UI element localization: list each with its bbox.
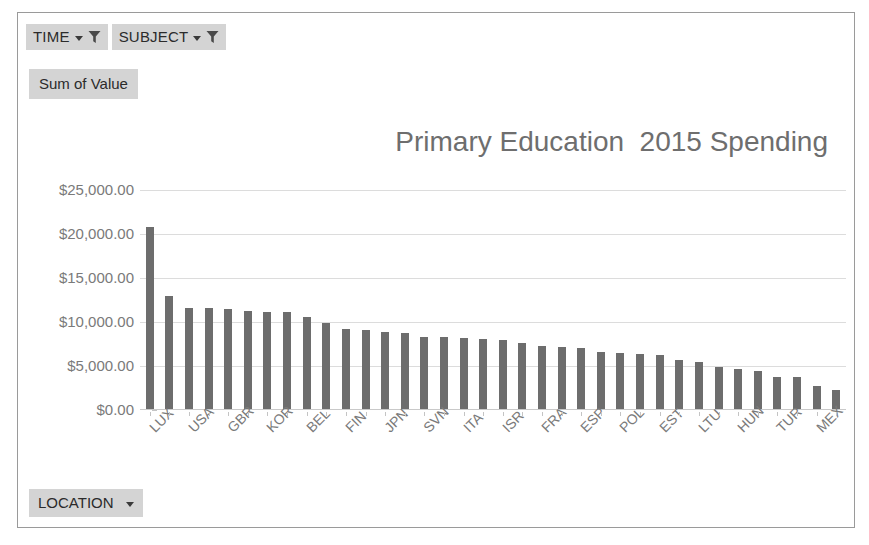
y-axis-tick-label: $5,000.00 <box>18 357 134 374</box>
bar[interactable] <box>146 227 154 410</box>
y-axis: $25,000.00$20,000.00$15,000.00$10,000.00… <box>18 176 134 424</box>
y-axis-tick <box>152 410 157 411</box>
bar[interactable] <box>813 386 821 410</box>
filter-button-time[interactable]: TIME <box>26 24 108 50</box>
bar[interactable] <box>558 347 566 410</box>
x-axis-tick <box>385 412 386 416</box>
y-axis-tick-label: $20,000.00 <box>18 225 134 242</box>
x-axis-tick <box>464 412 465 416</box>
bar[interactable] <box>322 323 330 410</box>
x-axis-tick <box>150 412 151 416</box>
x-axis-tick <box>601 412 602 416</box>
bar[interactable] <box>362 330 370 410</box>
value-field-button[interactable]: Sum of Value <box>29 69 138 99</box>
report-filter-bar: TIME SUBJECT <box>26 24 226 50</box>
bar[interactable] <box>773 377 781 410</box>
chevron-down-icon <box>126 502 134 507</box>
x-axis-tick <box>640 412 641 416</box>
y-axis-tick-label: $15,000.00 <box>18 269 134 286</box>
bar[interactable] <box>499 340 507 410</box>
x-axis-tick <box>287 412 288 416</box>
x-axis-labels: LUXUSAGBRKORBELFINJPNSVNITAISRFRAESPPOLE… <box>140 412 850 482</box>
x-axis-tick <box>248 412 249 416</box>
bar[interactable] <box>244 311 252 410</box>
plot-area <box>140 190 846 410</box>
x-axis-tick <box>503 412 504 416</box>
x-axis-tick <box>797 412 798 416</box>
bar-series <box>140 190 846 410</box>
x-axis-tick <box>326 412 327 416</box>
x-axis-tick <box>836 412 837 416</box>
x-axis-tick <box>542 412 543 416</box>
bar[interactable] <box>440 337 448 410</box>
filter-button-time-label: TIME <box>33 29 70 44</box>
x-axis-tick <box>581 412 582 416</box>
x-axis-tick <box>660 412 661 416</box>
x-axis-tick <box>620 412 621 416</box>
bar[interactable] <box>303 317 311 410</box>
bar[interactable] <box>185 308 193 410</box>
x-axis-tick <box>562 412 563 416</box>
x-axis-tick <box>366 412 367 416</box>
bar[interactable] <box>715 367 723 410</box>
bar[interactable] <box>381 332 389 410</box>
x-axis-tick <box>209 412 210 416</box>
bar[interactable] <box>518 343 526 410</box>
bar[interactable] <box>577 348 585 410</box>
x-axis-tick <box>267 412 268 416</box>
x-axis-tick <box>522 412 523 416</box>
screenshot-root: TIME SUBJECT Sum of Value Primary Educat… <box>0 0 869 545</box>
y-axis-tick-label: $0.00 <box>18 401 134 418</box>
bar[interactable] <box>342 329 350 410</box>
x-axis-tick <box>679 412 680 416</box>
filter-funnel-icon <box>88 30 101 44</box>
x-axis-tick <box>777 412 778 416</box>
bar[interactable] <box>283 312 291 410</box>
x-axis-tick <box>817 412 818 416</box>
x-axis-tick <box>758 412 759 416</box>
x-axis-tick <box>405 412 406 416</box>
x-axis-tick <box>169 412 170 416</box>
bar[interactable] <box>205 308 213 410</box>
bar[interactable] <box>656 355 664 410</box>
bar[interactable] <box>636 354 644 410</box>
x-axis-tick <box>699 412 700 416</box>
axis-field-button-label: LOCATION <box>38 494 114 511</box>
x-axis-tick <box>307 412 308 416</box>
chevron-down-icon <box>193 36 201 41</box>
bar[interactable] <box>165 296 173 410</box>
bar[interactable] <box>597 352 605 410</box>
x-axis-tick <box>483 412 484 416</box>
x-axis-tick <box>424 412 425 416</box>
y-axis-tick-label: $10,000.00 <box>18 313 134 330</box>
chevron-down-icon <box>75 36 83 41</box>
x-axis-tick <box>228 412 229 416</box>
chart-title: Primary Education 2015 Spending <box>0 126 846 158</box>
bar[interactable] <box>224 309 232 410</box>
x-axis-tick <box>189 412 190 416</box>
bar[interactable] <box>401 333 409 410</box>
axis-field-button-location[interactable]: LOCATION <box>29 489 143 517</box>
bar[interactable] <box>675 360 683 410</box>
bar[interactable] <box>734 369 742 410</box>
bar[interactable] <box>479 339 487 410</box>
bar[interactable] <box>263 312 271 410</box>
bar[interactable] <box>460 338 468 410</box>
y-axis-tick-label: $25,000.00 <box>18 181 134 198</box>
x-axis-tick <box>346 412 347 416</box>
bar[interactable] <box>695 362 703 410</box>
x-axis-tick <box>719 412 720 416</box>
filter-funnel-icon <box>206 30 219 44</box>
bar[interactable] <box>420 337 428 410</box>
x-axis-tick <box>444 412 445 416</box>
bar[interactable] <box>616 353 624 410</box>
x-axis-tick <box>738 412 739 416</box>
filter-button-subject-label: SUBJECT <box>119 29 189 44</box>
filter-button-subject[interactable]: SUBJECT <box>112 24 227 50</box>
bar[interactable] <box>538 346 546 410</box>
